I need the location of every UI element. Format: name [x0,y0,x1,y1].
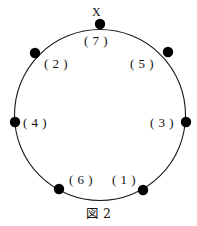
node-1-dot [138,185,148,195]
node-4-label: ( 4 ) [23,116,47,129]
node-2-label: ( 2 ) [44,57,68,70]
figure-container: X ( 7 )( 2 )( 5 )( 4 )( 3 )( 6 )( 1 ) 図 … [0,0,197,226]
node-2-dot [30,48,40,58]
node-7-label: ( 7 ) [84,34,108,47]
node-3-label: ( 3 ) [150,116,174,129]
node-1-label: ( 1 ) [112,173,136,186]
node-5-label: ( 5 ) [130,57,154,70]
node-7-dot [95,19,105,29]
node-6-dot [54,184,64,194]
figure-caption: 図 2 [0,208,197,221]
node-4-dot [10,117,20,127]
apex-marker-x: X [92,6,101,18]
node-3-dot [181,117,191,127]
node-6-label: ( 6 ) [69,173,93,186]
node-5-dot [163,47,173,57]
